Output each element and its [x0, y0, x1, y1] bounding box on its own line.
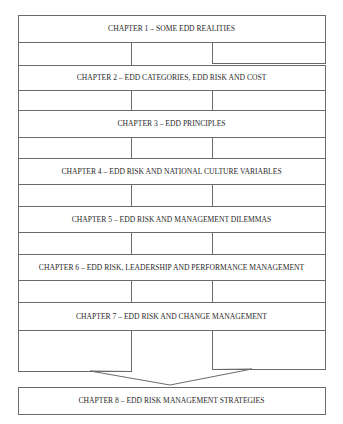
connector-left-3-4 — [19, 138, 132, 159]
connector-right-5-6 — [213, 231, 326, 255]
connector-left-2-3 — [19, 91, 132, 112]
arrow-shaft-right — [213, 329, 326, 370]
chapter-label-6: CHAPTER 6 – EDD RISK, LEADERSHIP AND PER… — [39, 263, 305, 272]
chapter-box-8: CHAPTER 8 – EDD RISK MANAGEMENT STRATEGI… — [19, 388, 326, 415]
chapter-flow-diagram: CHAPTER 1 – SOME EDD REALITIESCHAPTER 2 … — [0, 0, 343, 424]
chapter-label-7: CHAPTER 7 – EDD RISK AND CHANGE MANAGEME… — [76, 312, 267, 321]
connector-right-4-5 — [213, 183, 326, 207]
chapter-box-4: CHAPTER 4 – EDD RISK AND NATIONAL CULTUR… — [19, 159, 326, 185]
final-arrow — [19, 329, 326, 386]
connector-left-5-6 — [19, 233, 132, 255]
chapter-label-4: CHAPTER 4 – EDD RISK AND NATIONAL CULTUR… — [61, 167, 281, 176]
connector-left-4-5 — [19, 185, 132, 207]
connector-right-3-4 — [213, 135, 326, 159]
chapter-box-2: CHAPTER 2 – EDD CATEGORIES, EDD RISK AND… — [19, 66, 326, 91]
connector-left-6-7 — [19, 281, 132, 303]
connector-left-1-2 — [19, 43, 132, 66]
chapter-box-6: CHAPTER 6 – EDD RISK, LEADERSHIP AND PER… — [19, 255, 326, 281]
chapter-box-5: CHAPTER 5 – EDD RISK AND MANAGEMENT DILE… — [19, 207, 326, 233]
connector-right-1-2 — [213, 41, 326, 64]
arrow-shaft-left — [19, 331, 132, 372]
connector-right-6-7 — [213, 279, 326, 303]
chapter-box-7: CHAPTER 7 – EDD RISK AND CHANGE MANAGEME… — [19, 303, 326, 331]
chapter-box-3: CHAPTER 3 – EDD PRINCIPLES — [19, 111, 326, 138]
chapter-label-5: CHAPTER 5 – EDD RISK AND MANAGEMENT DILE… — [72, 215, 272, 224]
down-arrow-icon — [90, 369, 252, 385]
chapter-label-1: CHAPTER 1 – SOME EDD REALITIES — [108, 24, 235, 33]
chapter-box-1: CHAPTER 1 – SOME EDD REALITIES — [19, 16, 326, 43]
chapter-label-3: CHAPTER 3 – EDD PRINCIPLES — [117, 119, 225, 128]
chapter-label-2: CHAPTER 2 – EDD CATEGORIES, EDD RISK AND… — [77, 73, 267, 82]
chapter-label-8: CHAPTER 8 – EDD RISK MANAGEMENT STRATEGI… — [79, 396, 265, 405]
